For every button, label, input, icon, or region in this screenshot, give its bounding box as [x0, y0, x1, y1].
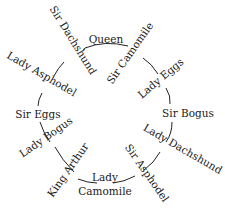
node-lady-bogus: Lady Bogus: [17, 114, 75, 159]
node-sir-eggs: Sir Eggs: [15, 108, 60, 120]
node-lady-dachshund: Lady Dachshund: [141, 121, 224, 176]
seating-diagram: Queen Sir Camomile Lady Eggs Sir Bogus L…: [0, 0, 225, 219]
node-lady-eggs: Lady Eggs: [135, 55, 185, 100]
node-queen: Queen: [89, 33, 124, 45]
arc-sir-eggs-lady-asphodel: [38, 93, 42, 106]
node-lady-asphodel: Lady Asphodel: [5, 49, 79, 99]
node-lady-camomile-line1: Lady: [92, 171, 118, 183]
arc-sir-camomile-lady-eggs: [143, 58, 158, 74]
node-sir-camomile: Sir Camomile: [104, 20, 155, 86]
node-sir-bogus: Sir Bogus: [162, 107, 214, 119]
arc-lady-eggs-sir-bogus: [166, 88, 170, 104]
node-lady-camomile-line2: Camomile: [78, 185, 131, 197]
diagram-canvas: Queen Sir Camomile Lady Eggs Sir Bogus L…: [0, 0, 225, 219]
